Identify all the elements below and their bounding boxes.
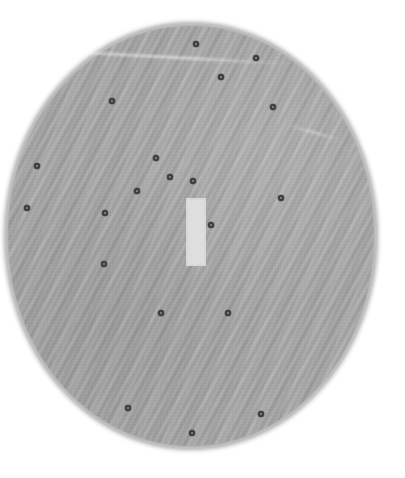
marker-dot [101,261,107,267]
marker-dot [193,41,199,47]
marker-dot [125,405,131,411]
marker-dot [34,163,40,169]
marker-dot [134,188,140,194]
marker-dot [109,98,115,104]
marker-dot [102,210,108,216]
marker-dot [258,411,264,417]
scan-viewport [0,0,405,478]
marker-dot [278,195,284,201]
pale-vertical-rectangle-core [188,200,204,264]
marker-dot [253,55,259,61]
marker-dot [225,310,231,316]
marker-dot [158,310,164,316]
marker-dot [167,174,173,180]
marker-dot [153,155,159,161]
marker-dot [190,178,196,184]
marker-dot [270,104,276,110]
marker-dot [218,74,224,80]
marker-dot [208,222,214,228]
marker-dot [24,205,30,211]
marker-dot [189,430,195,436]
